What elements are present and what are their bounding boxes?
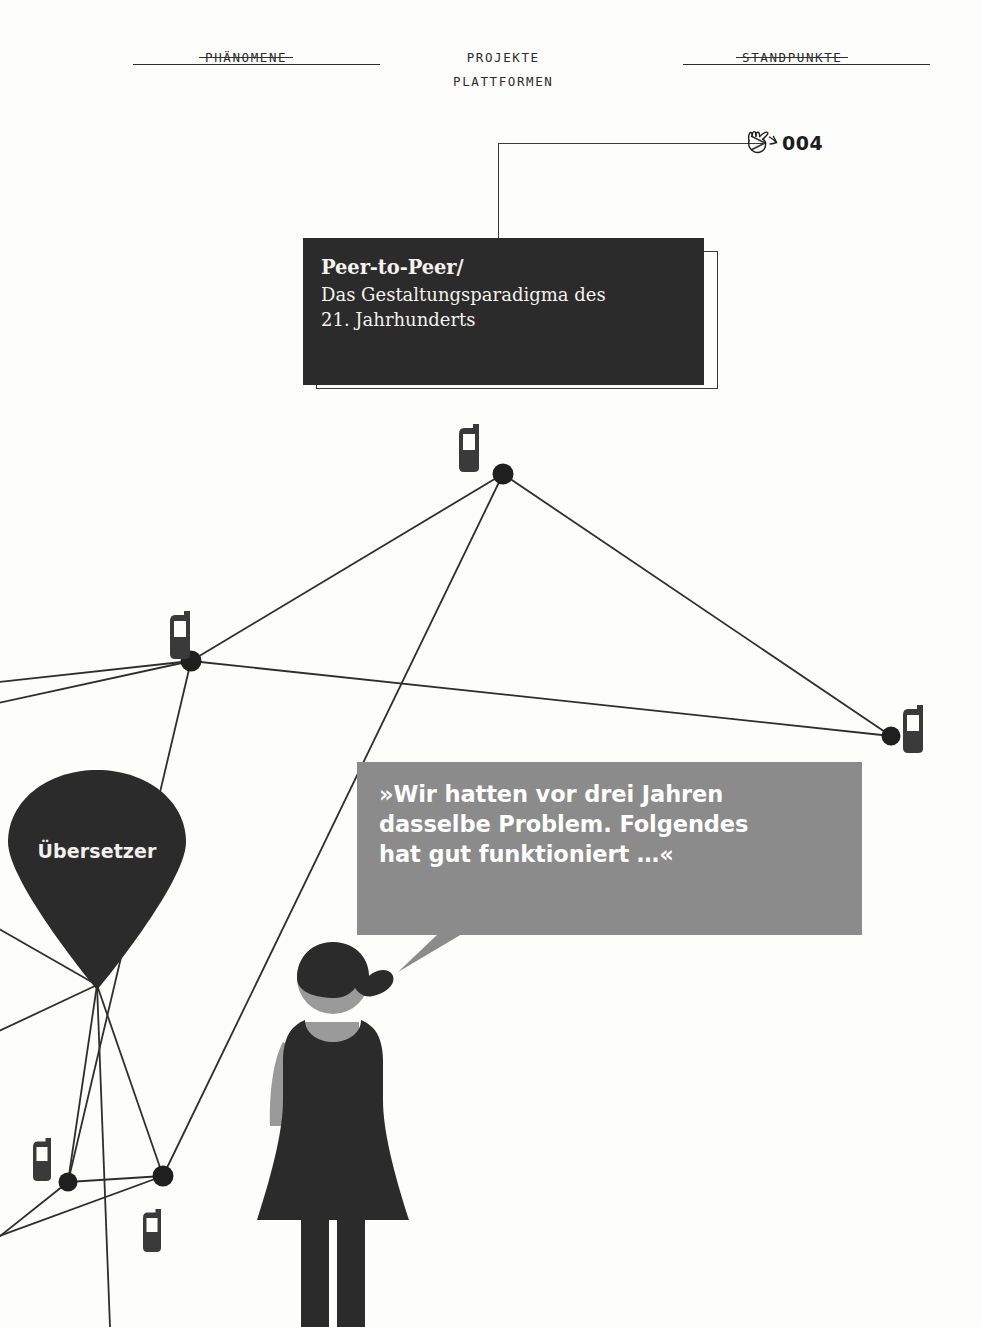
edge-pin-bottommid [97, 985, 163, 1176]
speech-bubble-tail [398, 934, 462, 972]
phone-icon [459, 424, 479, 472]
node-hub[interactable] [493, 464, 514, 485]
edge-hub-right [503, 474, 891, 736]
figure-left-leg [301, 1218, 329, 1327]
phone-icon [170, 611, 190, 659]
speech-bubble[interactable]: »Wir hatten vor drei Jahren dasselbe Pro… [357, 762, 862, 935]
node-bottom-left[interactable] [59, 1173, 78, 1192]
edge-bottomleft-offleft [0, 1182, 68, 1252]
edge-pin-down [97, 985, 110, 1327]
speech-line-2: dasselbe Problem. Folgendes [379, 809, 840, 839]
figure-headscarf [297, 942, 394, 998]
pin-uebersetzer[interactable]: Übersetzer [6, 768, 188, 990]
map-pin-icon [6, 768, 188, 990]
node-right[interactable] [882, 727, 901, 746]
phone-icon [33, 1138, 51, 1181]
speech-line-3: hat gut funktioniert …« [379, 839, 840, 869]
poster-page: PHÄNOMENE PROJEKTE PLATTFORMEN STANDPUNK… [0, 0, 982, 1327]
node-bottom-mid[interactable] [153, 1166, 174, 1187]
phone-icon [903, 705, 923, 753]
peer-network-graph [0, 0, 982, 1327]
edge-leftmid-right [191, 661, 891, 736]
edge-leftmid-offleft [0, 661, 191, 684]
figure-woman-with-headscarf [243, 930, 423, 1327]
pin-label: Übersetzer [6, 840, 188, 862]
figure-right-leg [337, 1218, 365, 1327]
edge-bottommid-offleft [0, 1176, 163, 1243]
speech-line-1: »Wir hatten vor drei Jahren [379, 779, 840, 809]
phone-icon [143, 1209, 161, 1252]
edge-pin-offleft2 [0, 985, 97, 1040]
edge-off-to-leftmid [0, 661, 191, 707]
edge-hub-leftmid [191, 474, 503, 661]
edge-pin-bottomleft [68, 985, 97, 1182]
